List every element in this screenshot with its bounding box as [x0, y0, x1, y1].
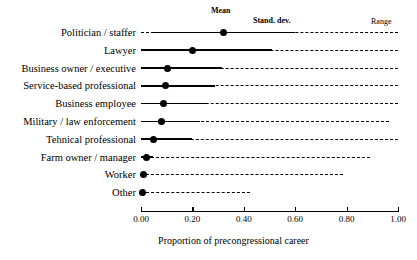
x-tick	[398, 207, 399, 212]
chart-row: Worker	[0, 168, 417, 185]
mean-dot	[140, 171, 147, 178]
range-segment	[141, 192, 250, 193]
x-axis-line	[141, 211, 398, 212]
range-segment	[141, 174, 343, 175]
chart-row: Politician / staffer	[0, 26, 417, 43]
range-segment	[141, 157, 370, 158]
chart-row: Other	[0, 186, 417, 203]
mean-dot	[189, 47, 196, 54]
x-tick	[192, 207, 193, 212]
x-tick-label: 0.00	[133, 214, 149, 225]
row-marks	[0, 80, 417, 92]
chart-row: Service-based professional	[0, 79, 417, 96]
x-tick-label: 1.00	[390, 214, 406, 225]
mean-dot	[220, 29, 227, 36]
row-marks	[0, 169, 417, 181]
chart-row: Lawyer	[0, 44, 417, 61]
chart-row: Military / law enforcement	[0, 115, 417, 132]
row-marks	[0, 63, 417, 75]
row-marks	[0, 27, 417, 39]
x-tick	[347, 207, 348, 212]
x-axis-label-text: Proportion of precongressional career	[158, 235, 309, 246]
x-tick-label: 0.60	[287, 214, 303, 225]
x-tick	[244, 207, 245, 212]
stand-dev-segment	[141, 121, 200, 123]
x-tick-label: 0.80	[339, 214, 355, 225]
x-tick	[295, 207, 296, 212]
x-tick-label: 0.40	[236, 214, 252, 225]
row-marks	[0, 152, 417, 164]
mean-dot	[160, 100, 167, 107]
chart-row: Farm owner / manager	[0, 151, 417, 168]
row-marks	[0, 98, 417, 110]
mean-dot	[150, 136, 157, 143]
mean-dot	[164, 65, 171, 72]
x-axis-label: Proportion of precongressional career	[0, 235, 417, 247]
mean-dot	[162, 82, 169, 89]
mean-dot	[158, 118, 165, 125]
x-tick	[141, 207, 142, 212]
x-tick-label: 0.20	[185, 214, 201, 225]
chart-row: Tehnical professional	[0, 133, 417, 150]
row-marks	[0, 187, 417, 199]
dot-range-chart: Mean Stand. dev. Range Politician / staf…	[0, 0, 417, 260]
stand-dev-segment	[141, 138, 192, 140]
annotation-stand-dev: Stand. dev.	[253, 16, 291, 26]
stand-dev-segment	[141, 85, 215, 87]
stand-dev-segment	[141, 103, 208, 105]
row-marks	[0, 134, 417, 146]
row-marks	[0, 45, 417, 57]
annotation-mean: Mean	[211, 6, 231, 16]
chart-row: Business employee	[0, 97, 417, 114]
mean-dot	[143, 154, 150, 161]
stand-dev-segment	[141, 67, 222, 69]
stand-dev-segment	[141, 49, 272, 51]
mean-dot	[139, 189, 146, 196]
chart-row: Business owner / executive	[0, 62, 417, 79]
row-marks	[0, 116, 417, 128]
